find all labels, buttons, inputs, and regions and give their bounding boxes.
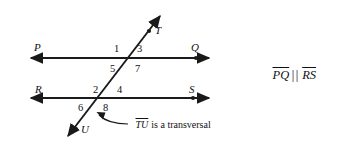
segment-rs-label: RS: [302, 68, 317, 82]
angle-number-8: 8: [103, 103, 108, 114]
point-dot-p: [36, 56, 40, 60]
segment-tu-label: TU: [135, 119, 149, 130]
angle-number-1: 1: [114, 44, 119, 55]
point-label-u: U: [81, 124, 89, 135]
point-label-s: S: [189, 84, 195, 95]
point-dot-r: [36, 96, 40, 100]
transversal-annotation: TU is a transversal: [135, 120, 211, 130]
parallel-symbol: ||: [290, 68, 302, 82]
geometry-figure-canvas: P Q R S T U 1 3 5 7 2 4 6 8 TU is a tran…: [0, 0, 346, 150]
angle-number-5: 5: [110, 64, 115, 75]
transversal-annotation-text: is a transversal: [149, 119, 211, 130]
angle-number-2: 2: [93, 85, 98, 96]
angle-number-6: 6: [78, 103, 83, 114]
angle-number-4: 4: [117, 85, 122, 96]
angle-number-3: 3: [137, 44, 142, 55]
point-label-t: T: [155, 25, 161, 36]
angle-number-7: 7: [135, 64, 140, 75]
point-dot-q: [194, 56, 198, 60]
point-label-p: P: [34, 42, 41, 53]
point-label-r: R: [35, 84, 42, 95]
parallel-statement: PQ||RS: [272, 69, 317, 82]
segment-pq-label: PQ: [272, 68, 290, 82]
point-label-q: Q: [191, 42, 199, 53]
point-dot-u: [74, 127, 78, 131]
point-dot-s: [191, 96, 195, 100]
line-transversal-tu: [68, 16, 160, 136]
point-dot-t: [147, 29, 151, 33]
